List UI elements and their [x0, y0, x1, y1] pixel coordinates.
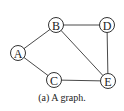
- node-label: E: [104, 75, 111, 89]
- edge-b-e: [56, 25, 108, 81]
- node-e: E: [101, 74, 116, 89]
- node-b: B: [49, 18, 64, 33]
- graph-figure: ABCDE (a) A graph.: [0, 0, 124, 111]
- node-label: D: [103, 19, 112, 33]
- node-a: A: [11, 46, 26, 61]
- node-d: D: [100, 18, 115, 33]
- node-label: B: [52, 19, 60, 33]
- node-label: A: [14, 47, 23, 61]
- edge-d-e: [107, 25, 108, 81]
- node-c: C: [47, 73, 62, 88]
- graph-nodes: ABCDE: [11, 18, 116, 89]
- node-label: C: [50, 74, 58, 88]
- figure-caption: (a) A graph.: [0, 92, 124, 103]
- graph-edges: [18, 25, 108, 81]
- edge-c-e: [54, 80, 108, 81]
